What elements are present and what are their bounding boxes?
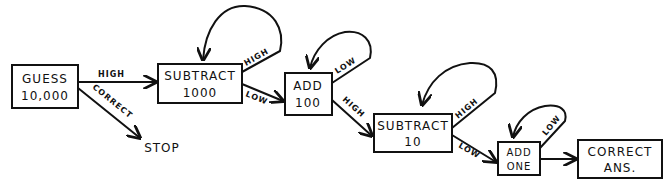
- loop-subtract-1000-high: HIGH: [203, 6, 281, 72]
- node-guess: GUESS 10,000: [12, 65, 78, 108]
- edge-add-100-to-subtract-10: HIGH: [332, 95, 372, 136]
- edge-label-low: LOW: [333, 56, 358, 76]
- edge-guess-to-subtract-1000: HIGH: [78, 70, 156, 82]
- node-add-100-line2: 100: [295, 96, 321, 110]
- loop-arrow: [203, 6, 281, 72]
- edge-subtract-10-to-add-one: LOW: [452, 135, 496, 162]
- node-subtract-1000-line1: SUBTRACT: [164, 69, 236, 83]
- node-subtract-10-line1: SUBTRACT: [377, 119, 449, 133]
- edge-label-low: LOW: [244, 90, 269, 107]
- edge-label-high: HIGH: [98, 70, 125, 79]
- node-subtract-10-line2: 10: [404, 135, 421, 149]
- node-subtract-1000-line2: 1000: [183, 86, 218, 100]
- node-add-one-line2: ONE: [507, 161, 532, 172]
- node-correct-ans-line1: CORRECT: [588, 145, 653, 159]
- edge-label-high: HIGH: [341, 95, 367, 120]
- node-guess-line1: GUESS: [22, 72, 68, 86]
- edge-subtract-1000-to-add-100: LOW: [242, 84, 283, 107]
- node-correct-ans: CORRECT ANS.: [578, 140, 662, 178]
- node-correct-ans-line2: ANS.: [604, 161, 637, 175]
- edge-label-low: LOW: [541, 114, 563, 138]
- node-add-one: ADD ONE: [498, 142, 540, 175]
- node-subtract-10: SUBTRACT 10: [374, 114, 452, 152]
- node-add-100-line1: ADD: [293, 79, 323, 93]
- node-guess-line2: 10,000: [21, 89, 69, 103]
- node-add-100: ADD 100: [285, 73, 332, 115]
- edge-label-low: LOW: [457, 141, 482, 161]
- node-add-one-line1: ADD: [506, 147, 531, 158]
- edge-guess-to-stop: CORRECT: [78, 83, 140, 138]
- node-subtract-1000: SUBTRACT 1000: [158, 64, 242, 103]
- node-stop: STOP: [144, 141, 180, 155]
